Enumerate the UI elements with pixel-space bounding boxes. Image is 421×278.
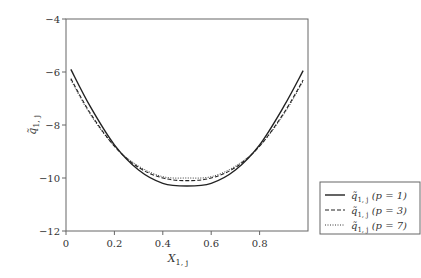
svg-text:X1, j: X1, j [167, 252, 189, 267]
x-tick-label: 0 [63, 238, 69, 249]
x-tick-label: 0.6 [203, 238, 219, 249]
y-tick-label: −4 [45, 14, 60, 25]
x-axis-ticks: 00.20.40.60.8 [63, 231, 268, 249]
y-tick-label: −8 [45, 120, 60, 131]
x-tick-label: 0.2 [106, 238, 122, 249]
y-tick-label: −12 [39, 226, 60, 237]
series-line-solid [71, 69, 303, 186]
x-axis-label: X1, j [167, 252, 189, 267]
x-tick-label: 0.8 [252, 238, 268, 249]
line-chart: −4−6−8−10−12 00.20.40.60.8 X1, j q̃1, j … [0, 0, 421, 278]
series-lines [71, 69, 303, 186]
legend: q̃1, j (p = 1)q̃1, j (p = 3)q̃1, j (p = … [320, 182, 420, 234]
y-tick-label: −6 [45, 67, 60, 78]
y-tick-label: −10 [39, 173, 60, 184]
series-line-dotted [71, 80, 303, 178]
svg-text:q̃1, j: q̃1, j [26, 115, 41, 135]
y-axis-ticks: −4−6−8−10−12 [39, 14, 66, 237]
x-tick-label: 0.4 [155, 238, 171, 249]
y-axis-label: q̃1, j [26, 115, 41, 135]
series-line-dashed [71, 79, 303, 181]
plot-frame [66, 19, 308, 231]
